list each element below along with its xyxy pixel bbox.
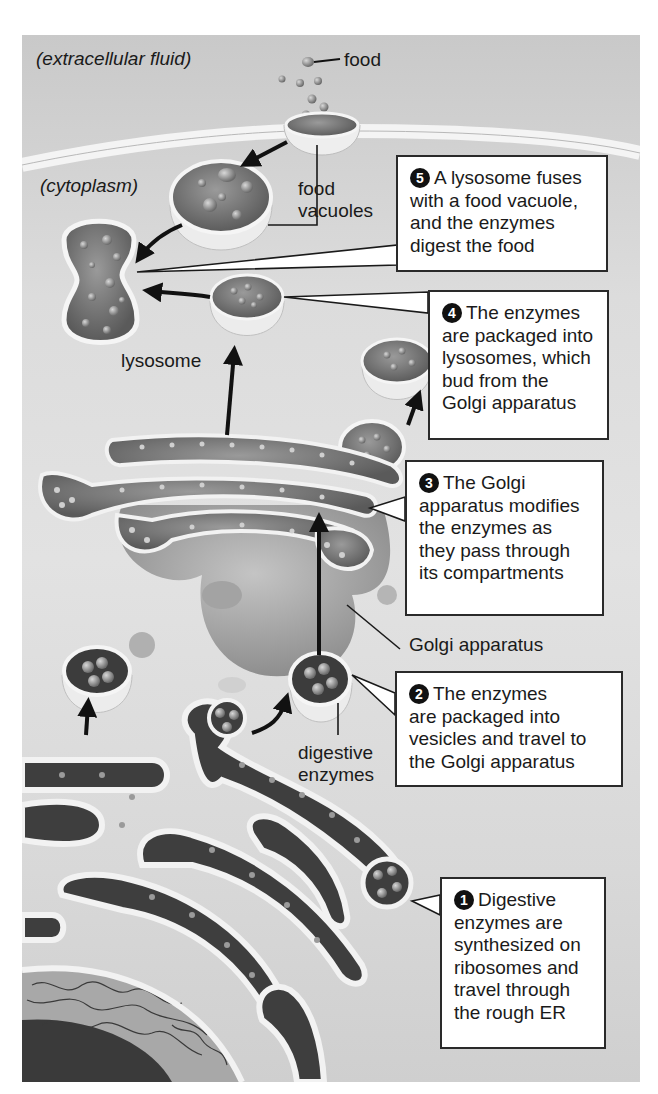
arrow-vacuole-to-fusion [140, 225, 182, 257]
transport-vesicle-digestive-enzymes [290, 653, 352, 722]
step-number-badge: 1 [454, 890, 474, 910]
arrow-lysosome-to-fusion [150, 291, 210, 297]
lysosome-budded [362, 339, 432, 400]
arrow-endocytosis [247, 142, 287, 163]
step-number-badge: 5 [410, 168, 430, 188]
step-3-callout: 3The Golgi apparatus modifies the enzyme… [405, 460, 604, 616]
er-bud [363, 859, 411, 907]
label-extracellular-fluid: (extracellular fluid) [36, 48, 191, 70]
diagram-panel: (extracellular fluid) food (cytoplasm) f… [22, 35, 640, 1082]
er-budding-vesicle [209, 700, 245, 736]
label-food-vacuoles-line2: vacuoles [298, 200, 373, 222]
arrow-er-to-vesicle-left [86, 705, 88, 735]
step-4-callout: 4The enzymes are packaged into lysosomes… [428, 290, 609, 440]
label-cytoplasm: (cytoplasm) [40, 175, 138, 197]
arrow-golgi-to-lysosome [227, 353, 234, 435]
label-golgi-apparatus: Golgi apparatus [409, 634, 543, 656]
fused-vacuole [64, 221, 137, 342]
endocytic-vacuole [284, 113, 360, 155]
label-lysosome: lysosome [121, 350, 201, 372]
label-digestive-enzymes-line1: digestive [298, 742, 373, 764]
food-vacuole-1 [170, 161, 272, 250]
label-food: food [344, 49, 381, 71]
step-number-badge: 4 [442, 303, 462, 323]
arrow-er-to-vesicle [252, 700, 286, 733]
lysosome [210, 275, 284, 336]
step-2-callout: 2The enzymes are packaged into vesicles … [395, 671, 623, 787]
step-number-badge: 2 [409, 684, 429, 704]
leader-golgi [347, 605, 400, 649]
transport-vesicle-left [62, 647, 132, 713]
nucleus [22, 968, 242, 1082]
arrow-golgi-to-lysosome-right [408, 397, 418, 425]
step-5-callout: 5A lysosome fuses with a food vacuole, a… [396, 155, 608, 272]
step-1-callout: 1Digestive enzymes are synthesized on ri… [440, 877, 606, 1049]
label-digestive-enzymes-line2: enzymes [298, 764, 374, 786]
step-number-badge: 3 [419, 473, 439, 493]
label-food-vacuoles-line1: food [298, 178, 335, 200]
